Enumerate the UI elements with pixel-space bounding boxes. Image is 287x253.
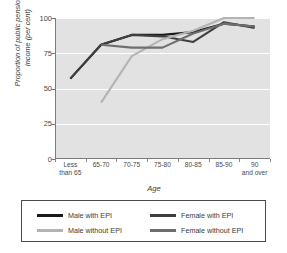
- y-tick-label: 25: [34, 119, 52, 128]
- legend-label: Female with EPI: [181, 211, 233, 220]
- legend-item[interactable]: Male with EPI: [37, 208, 112, 222]
- series-line: [70, 22, 254, 78]
- legend-label: Male with EPI: [68, 211, 112, 220]
- x-tick-label: 90and over: [235, 161, 275, 178]
- x-axis-labels: Lessthan 6565-7070-7575-8080-8585-9090an…: [38, 161, 270, 183]
- legend: Male with EPIFemale with EPIMale without…: [21, 200, 266, 242]
- legend-label: Female without EPI: [181, 226, 243, 235]
- legend-swatch: [150, 214, 176, 217]
- figure: Proportion of public pension in income (…: [0, 0, 287, 253]
- legend-label: Male without EPI: [68, 226, 122, 235]
- series-lines: [55, 18, 270, 159]
- legend-item[interactable]: Female with EPI: [150, 208, 233, 222]
- series-line: [70, 24, 254, 79]
- legend-item[interactable]: Male without EPI: [37, 223, 122, 237]
- chart: Proportion of public pension in income (…: [0, 0, 287, 196]
- legend-swatch: [37, 214, 63, 217]
- plot-area: 0255075100: [38, 18, 270, 159]
- legend-item[interactable]: Female without EPI: [150, 223, 243, 237]
- legend-swatch: [150, 229, 176, 232]
- y-tick-label: 100: [34, 14, 52, 23]
- y-axis-title: Proportion of public pension in income (…: [13, 0, 32, 98]
- legend-swatch: [37, 229, 63, 232]
- x-axis-title: Age: [38, 184, 270, 193]
- y-tick-label: 50: [34, 84, 52, 93]
- series-line: [101, 18, 255, 103]
- y-tick-label: 75: [34, 49, 52, 58]
